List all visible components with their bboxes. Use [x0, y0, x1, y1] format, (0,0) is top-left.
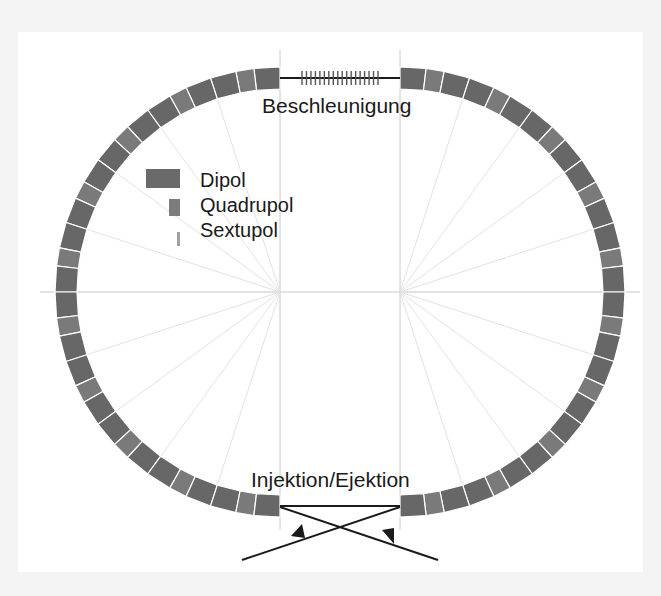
dipole-magnet [55, 266, 78, 292]
radial-guide-line [400, 292, 519, 456]
radial-guide-line [161, 292, 280, 456]
radial-guide-line [400, 229, 593, 292]
quadrupole-magnet [424, 491, 445, 516]
radial-guide-line [400, 292, 564, 411]
quadrupole-magnet [599, 248, 624, 269]
legend-quadrupole-label: Quadrupol [200, 194, 293, 217]
quadrupole-magnet [57, 248, 82, 269]
storage-ring-diagram [0, 0, 661, 596]
dipole-magnet [602, 266, 625, 292]
injection-extraction-label: Injektion/Ejektion [251, 468, 410, 492]
dipole-magnet [400, 494, 426, 517]
radial-guide-line [400, 128, 519, 292]
dipole-magnet [254, 67, 280, 90]
quadrupole-magnet [236, 491, 257, 516]
legend-dipole-label: Dipol [200, 169, 246, 192]
arrow-head-icon [291, 524, 305, 538]
legend-sextupole-label: Sextupol [200, 219, 278, 242]
radial-guide-line [116, 292, 280, 411]
radial-guide-line [400, 173, 564, 292]
legend-sextupole-icon [177, 232, 180, 246]
dipole-magnet [602, 292, 625, 318]
radial-guide-line [400, 292, 593, 355]
radial-guide-line [400, 292, 463, 485]
radial-guide-line [87, 292, 280, 355]
acceleration-label: Beschleunigung [262, 94, 411, 118]
diagram-canvas: Beschleunigung Injektion/Ejektion Dipol … [0, 0, 661, 596]
dipole-magnet [55, 292, 78, 318]
radial-guide-line [217, 292, 280, 485]
radial-guide-line [400, 99, 463, 292]
legend-quadrupole-icon [169, 199, 180, 216]
legend-dipole-icon [146, 169, 180, 188]
dipole-magnet [400, 67, 426, 90]
dipole-magnet [254, 494, 280, 517]
